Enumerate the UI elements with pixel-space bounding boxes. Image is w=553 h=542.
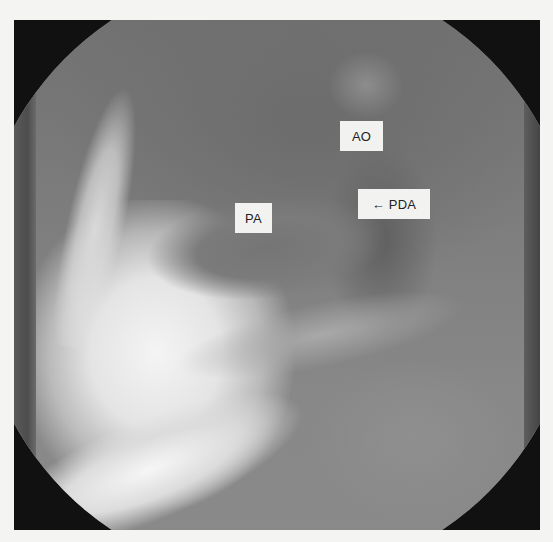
right-dark-strip (524, 20, 540, 530)
lower-bright-band (14, 341, 370, 530)
upper-light-blob (316, 40, 416, 130)
label-ao: AO (340, 121, 383, 151)
xray-base-shading (14, 20, 540, 530)
label-pa: PA (235, 203, 272, 233)
xray-circular-field (14, 20, 540, 530)
upper-bright-streak (31, 45, 172, 355)
lower-right-soft-tissue (306, 350, 540, 530)
bright-lung-field (36, 200, 336, 530)
xray-image-frame (14, 20, 540, 530)
left-dark-strip (14, 20, 36, 530)
mid-grey-band (150, 257, 492, 414)
label-pda: ← PDA (358, 189, 430, 219)
